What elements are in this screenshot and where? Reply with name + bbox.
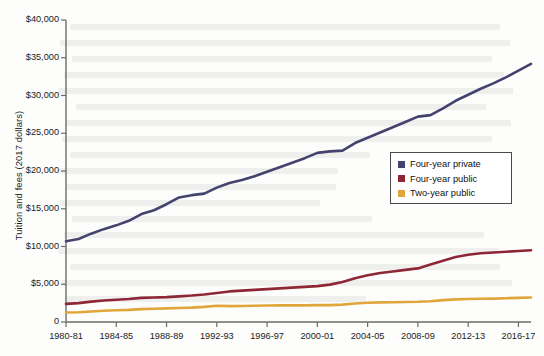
- legend-label-four-year-public: Four-year public: [410, 174, 477, 184]
- series-line-two-year-public: [66, 297, 531, 312]
- legend-item-four-year-public: Four-year public: [398, 172, 511, 187]
- x-tick-label: 2012-13: [451, 331, 485, 341]
- x-tick-label: 2000-01: [300, 331, 334, 341]
- x-tick-label: 1992-93: [200, 331, 234, 341]
- y-tick-label: $20,000: [5, 165, 59, 175]
- x-tick-label: 2016-17: [502, 331, 536, 341]
- legend-swatch-four-year-public: [398, 175, 405, 182]
- chart-legend: Four-year private Four-year public Two-y…: [390, 152, 512, 204]
- legend-label-two-year-public: Two-year public: [410, 188, 475, 198]
- x-tick-label: 2008-09: [401, 331, 435, 341]
- y-tick-label: $30,000: [5, 90, 59, 100]
- legend-item-four-year-private: Four-year private: [398, 157, 511, 172]
- y-tick-label: $15,000: [5, 203, 59, 213]
- x-tick-label: 2004-05: [351, 331, 385, 341]
- y-tick-label: $35,000: [5, 52, 59, 62]
- y-tick-label: $5,000: [5, 278, 59, 288]
- tuition-and-fees-line-chart: Tuition and fees (2017 dollars) 0$5,000$…: [0, 0, 544, 356]
- y-tick-label: $40,000: [5, 14, 59, 24]
- x-tick-label: 1996-97: [250, 331, 284, 341]
- legend-swatch-four-year-private: [398, 161, 405, 168]
- y-tick-label: $10,000: [5, 241, 59, 251]
- series-line-four-year-public: [66, 250, 531, 304]
- y-axis-ticks: [61, 20, 66, 322]
- y-tick-label: $25,000: [5, 127, 59, 137]
- x-tick-label: 1980-81: [49, 331, 83, 341]
- legend-label-four-year-private: Four-year private: [410, 159, 481, 169]
- x-tick-label: 1988-89: [150, 331, 184, 341]
- legend-item-two-year-public: Two-year public: [398, 186, 511, 201]
- y-axis-title: Tuition and fees (2017 dollars): [13, 96, 24, 256]
- y-tick-label: 0: [5, 316, 59, 326]
- legend-swatch-two-year-public: [398, 190, 405, 197]
- x-tick-label: 1984-85: [99, 331, 133, 341]
- x-axis-ticks: [66, 322, 518, 327]
